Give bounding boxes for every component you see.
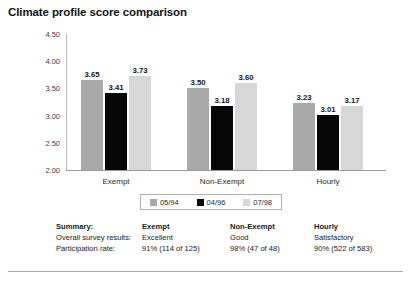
- bar: [129, 76, 151, 170]
- summary-cell: 98% (47 of 48): [230, 244, 314, 255]
- legend-item[interactable]: 05/94: [150, 198, 179, 207]
- legend-item[interactable]: 04/96: [197, 198, 226, 207]
- bar: [81, 80, 103, 170]
- chart-legend: 05/9404/9607/98: [140, 194, 282, 210]
- bar-group: 3.503.183.60: [187, 34, 293, 170]
- legend-swatch-icon: [150, 199, 157, 206]
- summary-cell: 91% (114 of 125): [142, 244, 230, 255]
- legend-label: 07/98: [253, 198, 272, 207]
- summary-column-header: Non-Exempt: [230, 222, 314, 233]
- chart-plot-area: 4.504.003.503.002.502.00 3.653.413.73Exe…: [0, 30, 411, 182]
- bar-value-label: 3.41: [99, 83, 133, 92]
- bar-value-label: 3.73: [123, 66, 157, 75]
- bar: [317, 115, 339, 170]
- bar: [235, 83, 257, 170]
- summary-cell: Good: [230, 233, 314, 244]
- legend-label: 04/96: [207, 198, 226, 207]
- summary-table: Summary:ExemptNon-ExemptHourlyOverall su…: [56, 222, 396, 255]
- summary-heading: Summary:: [56, 222, 142, 233]
- bar-group: 3.233.013.17: [293, 34, 399, 170]
- bar: [211, 106, 233, 170]
- legend-item[interactable]: 07/98: [243, 198, 272, 207]
- y-axis-tick-label: 2.00: [28, 166, 60, 175]
- y-axis-tick-label: 3.50: [28, 84, 60, 93]
- summary-row: Overall survey results:ExcellentGoodSati…: [56, 233, 396, 244]
- x-axis-category-label: Exempt: [56, 177, 176, 186]
- y-axis: 4.504.003.503.002.502.00: [28, 30, 60, 170]
- summary-column-header: Hourly: [314, 222, 396, 233]
- legend-swatch-icon: [243, 199, 250, 206]
- summary-row: Participation rate:91% (114 of 125)98% (…: [56, 244, 396, 255]
- bottom-divider: [8, 271, 403, 272]
- bar-group: 3.653.413.73: [81, 34, 187, 170]
- summary-cell: 90% (522 of 583): [314, 244, 396, 255]
- bar: [341, 106, 363, 170]
- summary-cell: Satisfactory: [314, 233, 396, 244]
- legend-label: 05/94: [160, 198, 179, 207]
- bar-value-label: 3.17: [335, 96, 369, 105]
- bar-value-label: 3.50: [181, 78, 215, 87]
- bar-value-label: 3.65: [75, 70, 109, 79]
- bar-value-label: 3.23: [287, 93, 321, 102]
- summary-row-label: Overall survey results:: [56, 233, 142, 244]
- bar: [105, 93, 127, 170]
- page-title: Climate profile score comparison: [8, 6, 187, 18]
- x-axis-line: [66, 170, 386, 171]
- summary-column-header: Exempt: [142, 222, 230, 233]
- y-axis-tick-label: 4.50: [28, 30, 60, 39]
- bar-value-label: 3.01: [311, 105, 345, 114]
- y-axis-tick-label: 3.00: [28, 111, 60, 120]
- y-axis-tick-label: 2.50: [28, 138, 60, 147]
- summary-cell: Excellent: [142, 233, 230, 244]
- bar-value-label: 3.18: [205, 96, 239, 105]
- x-axis-category-label: Hourly: [268, 177, 388, 186]
- bar-value-label: 3.60: [229, 73, 263, 82]
- summary-row-label: Participation rate:: [56, 244, 142, 255]
- x-axis-category-label: Non-Exempt: [162, 177, 282, 186]
- bars-container: 3.653.413.73Exempt3.503.183.60Non-Exempt…: [67, 34, 386, 170]
- summary-header-row: Summary:ExemptNon-ExemptHourly: [56, 222, 396, 233]
- legend-swatch-icon: [197, 199, 204, 206]
- y-axis-tick-label: 4.00: [28, 57, 60, 66]
